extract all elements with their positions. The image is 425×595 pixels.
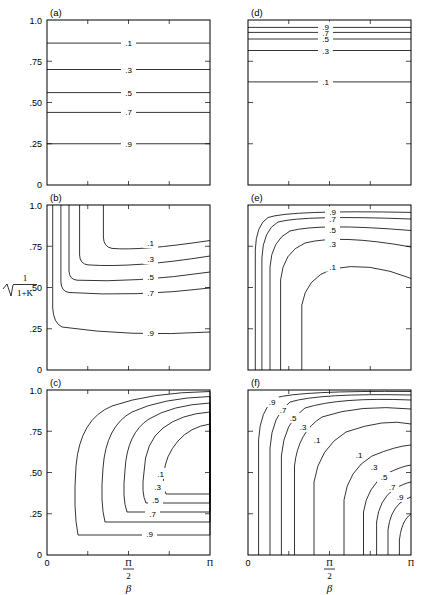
panel-b-ytick-075: .75 xyxy=(29,242,42,252)
panel-f-right-contour-label-1: .1 xyxy=(356,451,363,460)
panel-b-label: (b) xyxy=(50,192,62,203)
panel-b-ytick-1: 1.0 xyxy=(29,201,42,211)
panel-c-ytick-0: 0 xyxy=(37,550,42,560)
panel-a-contour-label-9: .9 xyxy=(125,140,132,149)
y-axis-denominator: 1+K xyxy=(17,288,34,298)
figure-contour-grid: (a) 1.0 .75 .50 .25 0 .1 .3 .5 .7 .9 xyxy=(0,0,425,595)
panel-c-ytick-050: .50 xyxy=(29,468,42,478)
panel-b-contour-label-7: .7 xyxy=(147,289,154,298)
panel-f-left-contour-label-1: .1 xyxy=(314,436,321,445)
panel-a: (a) 1.0 .75 .50 .25 0 .1 .3 .5 .7 .9 xyxy=(29,7,210,190)
panel-c-contour-label-7: .7 xyxy=(149,510,156,519)
panel-f-xaxis-label: β xyxy=(326,582,333,594)
panel-c-contour-label-9: .9 xyxy=(146,530,153,539)
panel-b-contour-label-9: .9 xyxy=(147,329,154,338)
panel-e-label: (e) xyxy=(251,192,263,203)
panel-f-right-contour-label-9: .9 xyxy=(397,493,404,502)
panel-f-label: (f) xyxy=(251,377,260,388)
panel-f-right-contour-label-5: .5 xyxy=(381,473,388,482)
panel-a-ytick-050: .50 xyxy=(29,98,42,108)
panel-a-ytick-0: 0 xyxy=(37,180,42,190)
panel-c-ytick-075: .75 xyxy=(29,427,42,437)
panel-a-contour-label-1: .1 xyxy=(125,39,132,48)
panel-c-label: (c) xyxy=(50,377,61,388)
panel-c-xtick-mid-top: Π xyxy=(125,558,132,568)
panel-a-ytick-075: .75 xyxy=(29,57,42,67)
panel-f-left-contour-label-7: .7 xyxy=(280,406,287,415)
panel-c-ytick-1: 1.0 xyxy=(29,386,42,396)
panel-f-right-contour-label-7: .7 xyxy=(389,483,396,492)
panel-f-left-contour-label-5: .5 xyxy=(290,414,297,423)
panel-f-xtick-mid-bottom: 2 xyxy=(327,571,332,581)
panel-e-contour-label-3: .3 xyxy=(329,240,336,249)
panel-a-contour-label-7: .7 xyxy=(125,108,132,117)
panel-a-label: (a) xyxy=(50,7,62,18)
panel-b-ytick-0: 0 xyxy=(37,365,42,375)
y-axis-numerator: 1 xyxy=(23,273,28,283)
panel-f-xtick-mid-top: Π xyxy=(326,558,333,568)
panel-d-contour-label-3: .3 xyxy=(322,47,329,56)
panel-c-xtick-mid-bottom: 2 xyxy=(126,571,131,581)
panel-f-xtick-right: Π xyxy=(408,558,415,568)
panel-b-contour-label-5: .5 xyxy=(147,273,154,282)
panel-b-contour-label-3: .3 xyxy=(147,255,154,264)
panel-b-ytick-025: .25 xyxy=(29,324,42,334)
panel-b: (b) 1.0 .75 .50 .25 0 1 1+K .1 .3 .5 .7 … xyxy=(3,192,210,375)
panel-f-left-contour-label-9: .9 xyxy=(269,398,276,407)
panel-d-contour-label-5: .5 xyxy=(322,35,329,44)
panel-e-contour-label-5: .5 xyxy=(329,226,336,235)
panel-c-contour-label-3: .3 xyxy=(154,483,161,492)
panel-e: (e) .9 .7 .5 .3 .1 xyxy=(248,192,411,370)
panel-a-contour-label-3: .3 xyxy=(125,66,132,75)
panel-f-right-contour-label-3: .3 xyxy=(371,463,378,472)
panel-c-xaxis-label: β xyxy=(125,582,132,594)
panel-c-xtick-right: Π xyxy=(207,558,214,568)
figure-svg: (a) 1.0 .75 .50 .25 0 .1 .3 .5 .7 .9 xyxy=(0,0,425,595)
panel-d-label: (d) xyxy=(251,7,263,18)
panel-a-ytick-1: 1.0 xyxy=(29,16,42,26)
panel-c-ytick-025: .25 xyxy=(29,509,42,519)
panel-e-contour-label-7: .7 xyxy=(329,215,336,224)
panel-c-xtick-left: 0 xyxy=(44,558,49,568)
panel-a-contour-label-5: .5 xyxy=(125,89,132,98)
panel-c-contour-label-1: .1 xyxy=(157,470,164,479)
panel-e-contour-label-1: .1 xyxy=(329,263,336,272)
panel-f-xtick-left: 0 xyxy=(245,558,250,568)
panel-c: (c) 1.0 .75 .50 .25 0 .1 .3 .5 .7 .9 0 Π… xyxy=(29,377,213,594)
panel-f: (f) .9 .7 .5 .3 .1 .1 .3 .5 .7 .9 0 xyxy=(245,377,414,594)
panel-d: (d) .9 .7 .5 .3 .1 xyxy=(248,7,411,185)
panel-b-contour-label-1: .1 xyxy=(147,239,154,248)
panel-a-ytick-025: .25 xyxy=(29,139,42,149)
panel-d-contour-label-1: .1 xyxy=(322,78,329,87)
panel-f-left-contour-label-3: .3 xyxy=(300,423,307,432)
panel-c-contour-label-5: .5 xyxy=(152,496,159,505)
